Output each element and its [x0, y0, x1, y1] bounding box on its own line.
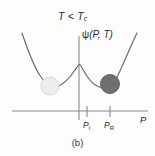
- free-energy-diagram: [0, 0, 155, 156]
- x-axis-label: P: [140, 115, 146, 125]
- psi-args: (P, T): [89, 29, 113, 40]
- tick-label-right: PR: [104, 121, 114, 131]
- figure-caption: (b): [0, 138, 155, 148]
- left-well-ball: [41, 77, 59, 95]
- tick-label-left: Pl: [83, 121, 90, 131]
- y-axis-label: ψ(P, T): [82, 30, 113, 40]
- tick-label-left-sub: l: [89, 125, 90, 131]
- title-subscript: c: [84, 15, 88, 22]
- right-well-ball: [101, 75, 120, 94]
- figure-panel-b: T < Tc ψ(P, T) Pl PR P (b): [0, 0, 155, 156]
- plot-title: T < Tc: [58, 11, 88, 22]
- tick-label-right-sub: R: [110, 125, 114, 131]
- title-text: T < T: [58, 10, 84, 22]
